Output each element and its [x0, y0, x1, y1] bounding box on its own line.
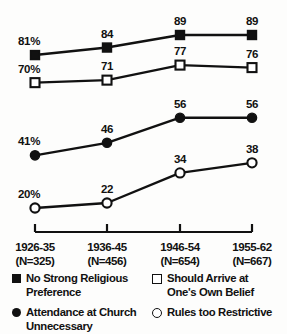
filled-square-marker: [248, 31, 257, 40]
legend-item-no-strong-religious-preference: No Strong ReligiousPreference: [12, 272, 152, 299]
open-circle-marker: [102, 198, 111, 207]
data-point-label: 89: [246, 16, 258, 28]
data-point-label: 84: [101, 28, 113, 40]
data-point-label: 46: [101, 123, 113, 135]
open-circle-marker: [30, 203, 39, 212]
legend-label: Should Arrive atOne's Own Belief: [167, 272, 254, 299]
data-point-label: 34: [174, 153, 186, 165]
x-tick-label: 1936-45(N=456): [87, 241, 126, 268]
series-line: [35, 118, 252, 156]
cohort-n: (N=654): [160, 255, 199, 269]
series-line: [35, 163, 252, 208]
legend-label: Attendance at ChurchUnnecessary: [26, 306, 136, 333]
open-square-icon: [152, 274, 162, 284]
chart-legend: No Strong ReligiousPreference Should Arr…: [12, 272, 280, 333]
cohort-range: 1926-35: [15, 241, 54, 253]
cohort-n: (N=325): [15, 255, 54, 269]
chart-root: 81%84898970%71777641%46565620%223438 192…: [0, 0, 287, 334]
cohort-range: 1946-54: [160, 241, 199, 253]
legend-item-rules-too-restrictive: Rules too Restrictive: [152, 306, 280, 333]
filled-circle-marker: [247, 113, 256, 122]
cohort-n: (N=667): [232, 255, 271, 269]
data-point-label: 81%: [18, 36, 40, 48]
open-square-marker: [248, 63, 257, 72]
legend-item-attendance-at-church-unnecessary: Attendance at ChurchUnnecessary: [12, 306, 152, 333]
cohort-n: (N=456): [87, 255, 126, 269]
open-circle-marker: [247, 158, 256, 167]
data-point-label: 71: [101, 61, 113, 73]
series-lines-layer: [0, 0, 287, 230]
x-tick-label: 1946-54(N=654): [160, 241, 199, 268]
filled-circle-marker: [102, 138, 111, 147]
filled-square-marker: [31, 51, 40, 60]
filled-circle-icon: [12, 308, 21, 317]
filled-circle-marker: [30, 151, 39, 160]
open-circle-marker: [175, 168, 184, 177]
data-point-label: 41%: [18, 136, 40, 148]
plot-area: 81%84898970%71777641%46565620%223438: [0, 0, 287, 230]
x-tick-label: 1955-62(N=667): [232, 241, 271, 268]
open-square-marker: [103, 76, 112, 85]
series-line: [35, 65, 252, 83]
open-square-marker: [31, 78, 40, 87]
open-square-marker: [176, 61, 185, 70]
data-point-label: 56: [246, 98, 258, 110]
filled-square-icon: [12, 274, 21, 283]
series-line: [35, 35, 252, 55]
data-point-label: 70%: [18, 63, 40, 75]
cohort-range: 1936-45: [87, 241, 126, 253]
filled-square-marker: [176, 31, 185, 40]
data-point-label: 56: [174, 98, 186, 110]
series-group: [30, 31, 256, 213]
data-point-label: 22: [101, 183, 113, 195]
legend-item-should-arrive-at-ones-own-belief: Should Arrive atOne's Own Belief: [152, 272, 280, 299]
data-point-label: 38: [246, 143, 258, 155]
data-point-label: 89: [174, 16, 186, 28]
data-point-label: 20%: [18, 189, 40, 201]
filled-square-marker: [103, 43, 112, 52]
data-point-label: 76: [246, 48, 258, 60]
open-circle-icon: [152, 308, 162, 318]
cohort-range: 1955-62: [232, 241, 271, 253]
filled-circle-marker: [175, 113, 184, 122]
legend-label: Rules too Restrictive: [167, 306, 272, 320]
legend-label: No Strong ReligiousPreference: [26, 272, 128, 299]
data-point-label: 77: [174, 46, 186, 58]
x-tick-label: 1926-35(N=325): [15, 241, 54, 268]
